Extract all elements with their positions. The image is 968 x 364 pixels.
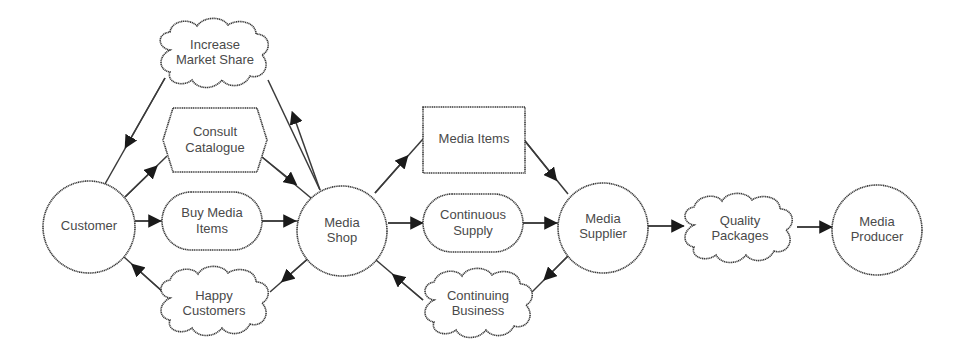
dependum-label: Catalogue (185, 140, 244, 155)
dependum-label: Quality (720, 213, 761, 228)
arrow (125, 170, 153, 197)
resource-media-items[interactable]: Media Items (423, 107, 525, 173)
softgoal-continuing-business[interactable]: Continuing Business (425, 268, 532, 337)
arrow (294, 117, 320, 190)
dependum-label: Market Share (176, 52, 254, 67)
actor-label: Producer (851, 229, 904, 244)
softgoal-quality-packages[interactable]: Quality Packages (685, 193, 792, 262)
task-consult-catalogue[interactable]: Consult Catalogue (163, 108, 267, 172)
softgoal-happy-customers[interactable]: Happy Customers (161, 266, 268, 335)
link-shop-ims (268, 80, 320, 190)
softgoal-increase-market-share[interactable]: Increase Market Share (160, 18, 268, 87)
dependum-label: Continuing (447, 288, 509, 303)
dependum-label: Increase (190, 37, 240, 52)
arrow (136, 268, 163, 292)
actor-media-supplier[interactable]: Media Supplier (558, 183, 648, 273)
dependum-label: Consult (193, 124, 237, 139)
actor-label: Media (585, 211, 621, 226)
dependum-label: Supply (453, 223, 493, 238)
dependum-label: Continuous (440, 207, 506, 222)
arrow (128, 78, 165, 143)
goal-buy-media-items[interactable]: Buy Media Items (162, 192, 262, 250)
dependum-label: Media Items (439, 131, 510, 146)
arrow (262, 157, 292, 181)
actor-label: Media (324, 215, 360, 230)
dependum-label: Buy Media (181, 205, 243, 220)
dependum-label: Customers (183, 303, 246, 318)
arrow (525, 141, 553, 176)
actor-media-shop[interactable]: Media Shop (297, 186, 387, 276)
actor-label: Supplier (579, 226, 627, 241)
goal-continuous-supply[interactable]: Continuous Supply (423, 194, 523, 252)
dependum-label: Packages (711, 228, 769, 243)
arrow (375, 160, 404, 193)
dependum-label: Happy (195, 288, 233, 303)
arrow (548, 256, 568, 276)
dependum-label: Business (452, 303, 505, 318)
actor-media-producer[interactable]: Media Producer (832, 185, 922, 275)
arrow (397, 278, 423, 300)
actor-label: Customer (61, 218, 118, 233)
dependency-diagram: Customer Media Shop Media Supplier Media… (0, 0, 968, 364)
actor-customer[interactable]: Customer (43, 181, 135, 273)
actor-label: Shop (327, 230, 357, 245)
actor-label: Media (859, 214, 895, 229)
dependum-label: Items (196, 221, 228, 236)
